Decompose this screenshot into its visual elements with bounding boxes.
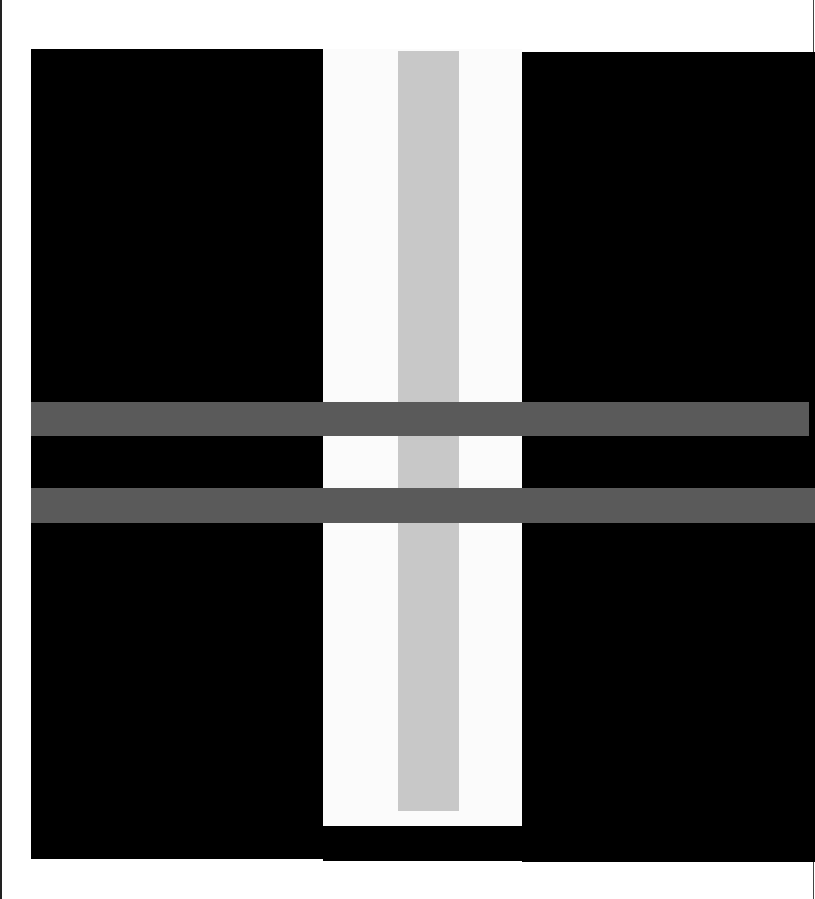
left-edge-line: [0, 0, 2, 899]
black-block-right: [522, 52, 815, 862]
dark-gray-horizontal-band-1: [31, 402, 809, 436]
dark-gray-horizontal-band-2: [31, 488, 815, 523]
black-block-bottom-center: [323, 826, 522, 861]
black-block-left: [31, 49, 323, 859]
